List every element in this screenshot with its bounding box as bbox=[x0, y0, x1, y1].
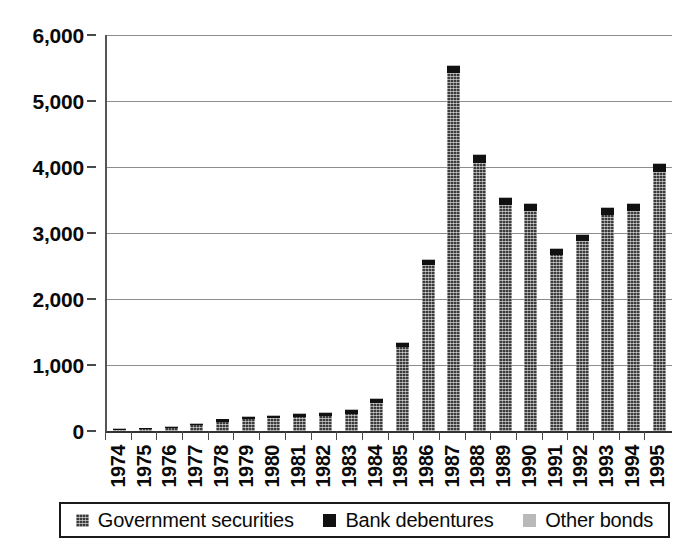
bar-segment bbox=[653, 172, 666, 431]
y-axis-tick-label: 2,000 bbox=[32, 289, 84, 310]
y-axis-tick-mark bbox=[87, 430, 96, 432]
bar-stack bbox=[345, 409, 358, 431]
x-axis-tick-mark bbox=[439, 431, 440, 440]
x-axis-label-slot: 1986 bbox=[413, 443, 439, 501]
y-axis-tick-label: 6,000 bbox=[32, 25, 84, 46]
bar-slot bbox=[467, 35, 493, 431]
x-axis-tick-mark bbox=[593, 431, 594, 440]
bar-stack bbox=[550, 248, 563, 431]
x-axis-label-slot: 1982 bbox=[311, 443, 337, 501]
bar-stack bbox=[653, 163, 666, 431]
x-axis-tick-slot bbox=[644, 431, 670, 441]
bar-slot bbox=[235, 35, 261, 431]
bar-stack bbox=[601, 207, 614, 431]
stacked-bar-chart: 6,0005,0004,0003,0002,0001,0000 19741975… bbox=[0, 0, 687, 551]
x-axis-label-slot: 1983 bbox=[336, 443, 362, 501]
bar-slot bbox=[595, 35, 621, 431]
bar-slot bbox=[313, 35, 339, 431]
bar-slot bbox=[210, 35, 236, 431]
x-axis-label-slot: 1980 bbox=[259, 443, 285, 501]
x-axis-label-slot: 1981 bbox=[285, 443, 311, 501]
x-axis-tick-mark bbox=[285, 431, 286, 440]
bar-slot bbox=[338, 35, 364, 431]
x-axis-tick-slot bbox=[567, 431, 593, 441]
bar-stack bbox=[447, 65, 460, 431]
x-axis-tick-label: 1987 bbox=[440, 445, 463, 488]
x-axis-tick-label: 1990 bbox=[517, 445, 540, 488]
x-axis-tick-label: 1995 bbox=[646, 445, 669, 488]
x-axis-tick-slot bbox=[336, 431, 362, 441]
x-axis-label-slot: 1991 bbox=[542, 443, 568, 501]
x-axis-tick-label: 1981 bbox=[286, 445, 309, 488]
bar-stack bbox=[216, 419, 229, 431]
y-axis-tick-label: 0 bbox=[73, 421, 84, 442]
x-axis-label-slot: 1977 bbox=[182, 443, 208, 501]
x-axis-tick-mark bbox=[490, 431, 491, 440]
x-axis-tick-label: 1993 bbox=[594, 445, 617, 488]
legend-item-label: Government securities bbox=[98, 509, 294, 532]
x-axis-label-slot: 1979 bbox=[233, 443, 259, 501]
x-axis-label-slot: 1976 bbox=[156, 443, 182, 501]
legend-item: Bank debentures bbox=[323, 509, 493, 532]
x-axis-tick-slot bbox=[465, 431, 491, 441]
bar-stack bbox=[242, 416, 255, 431]
bar-segment bbox=[319, 416, 332, 431]
bar-segment bbox=[601, 215, 614, 431]
x-axis-label-slot: 1974 bbox=[105, 443, 131, 501]
x-axis-tick-slot bbox=[362, 431, 388, 441]
bar-slot bbox=[287, 35, 313, 431]
y-axis-tick-mark bbox=[87, 34, 96, 36]
bar-segment bbox=[447, 73, 460, 431]
bar-slot bbox=[261, 35, 287, 431]
bar-stack bbox=[499, 197, 512, 431]
x-axis-tick-slot bbox=[388, 431, 414, 441]
bar-stack bbox=[319, 412, 332, 431]
bar-segment bbox=[627, 211, 640, 431]
x-axis-tick-mark bbox=[362, 431, 363, 440]
x-axis-tick-mark bbox=[156, 431, 157, 440]
bar-stack bbox=[422, 259, 435, 431]
bar-segment bbox=[473, 163, 486, 431]
bar-slot bbox=[518, 35, 544, 431]
x-axis-tick-mark bbox=[413, 431, 414, 440]
legend-item: Government securities bbox=[76, 509, 294, 532]
x-axis-labels: 1974197519761977197819791980198119821983… bbox=[105, 443, 670, 501]
x-axis-tick-label: 1979 bbox=[235, 445, 258, 488]
y-axis-tick-label: 1,000 bbox=[32, 355, 84, 376]
bank-debentures-swatch bbox=[323, 514, 336, 527]
x-axis-label-slot: 1984 bbox=[362, 443, 388, 501]
bar-stack bbox=[524, 203, 537, 431]
x-axis-tick-label: 1986 bbox=[415, 445, 438, 488]
x-axis-label-slot: 1988 bbox=[465, 443, 491, 501]
x-axis-tick-slot bbox=[542, 431, 568, 441]
x-axis-tick-mark bbox=[542, 431, 543, 440]
x-axis-tick-label: 1988 bbox=[466, 445, 489, 488]
x-axis-label-slot: 1994 bbox=[619, 443, 645, 501]
x-axis-tick-label: 1980 bbox=[260, 445, 283, 488]
bar-slot bbox=[544, 35, 570, 431]
chart-legend: Government securitiesBank debenturesOthe… bbox=[59, 502, 670, 538]
x-axis-tick-mark bbox=[567, 431, 568, 440]
x-axis-tick-mark bbox=[131, 431, 132, 440]
y-axis: 6,0005,0004,0003,0002,0001,0000 bbox=[0, 0, 96, 460]
x-axis-tick-label: 1991 bbox=[543, 445, 566, 488]
x-axis-tick-mark bbox=[311, 431, 312, 440]
x-axis-tick-mark bbox=[336, 431, 337, 440]
bar-slot bbox=[492, 35, 518, 431]
x-axis-tick-slot bbox=[233, 431, 259, 441]
x-axis-label-slot: 1995 bbox=[644, 443, 670, 501]
x-axis-tick-mark bbox=[208, 431, 209, 440]
bar-segment bbox=[524, 211, 537, 431]
bar-stack bbox=[190, 423, 203, 431]
y-axis-tick-label: 4,000 bbox=[32, 157, 84, 178]
x-axis-label-slot: 1985 bbox=[388, 443, 414, 501]
x-axis-tick-slot bbox=[131, 431, 157, 441]
bar-segment bbox=[370, 403, 383, 431]
x-axis-tick-mark bbox=[465, 431, 466, 440]
y-axis-tick-label: 5,000 bbox=[32, 91, 84, 112]
y-axis-tick-mark bbox=[87, 100, 96, 102]
y-axis-tick-mark bbox=[87, 232, 96, 234]
x-axis-tick-mark bbox=[619, 431, 620, 440]
gov-securities-swatch bbox=[76, 514, 89, 527]
bar-slot bbox=[158, 35, 184, 431]
